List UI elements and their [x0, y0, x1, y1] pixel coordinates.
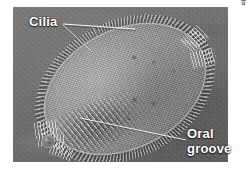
debris-particle [41, 135, 55, 148]
magnification-credit: LM 200× [239, 0, 248, 6]
oral-groove-label-line2: groove [187, 141, 232, 156]
oral-groove-label-line1: Oral [187, 126, 214, 141]
cilia-label: Cilia [29, 15, 57, 29]
oral-groove-label: Oral groove [187, 126, 232, 156]
micrograph-figure: Cilia Oral groove LM 200× [0, 0, 248, 172]
